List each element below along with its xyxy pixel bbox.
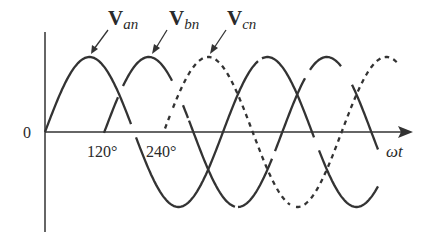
waveform-segment-van: [45, 57, 131, 132]
pointer-arrowhead-vbn-icon: [152, 44, 160, 54]
waveform-segment-van: [319, 150, 378, 207]
label-vbn-sub: bn: [184, 16, 199, 32]
waveform-segment-vbn: [123, 57, 172, 86]
svg-text:Vcn: Vcn: [227, 6, 256, 32]
tick-label-240: 240°: [146, 143, 176, 160]
pointer-arrow-vcn: [214, 30, 226, 48]
waveform-segment-van: [136, 61, 258, 207]
label-van-main: V: [108, 6, 123, 30]
origin-label: 0: [23, 124, 31, 141]
x-axis-label: ωt: [386, 142, 404, 161]
label-vbn-main: V: [169, 6, 184, 30]
waveform-segment-vbn: [352, 85, 378, 150]
pointer-arrowhead-vcn-icon: [210, 44, 218, 54]
waveform-segment-vbn: [104, 97, 118, 133]
pointer-arrowhead-van-icon: [91, 45, 98, 54]
waveform-segment-van: [262, 57, 314, 137]
label-van-sub: an: [123, 16, 138, 32]
pointer-arrow-vbn: [156, 30, 167, 48]
three-phase-waveform-diagram: 0 120° 240° ωt Van Vbn Vcn: [0, 0, 435, 235]
waveform-segment-vcn: [165, 115, 170, 128]
label-vcn-main: V: [227, 6, 242, 30]
waveform-segment-vbn: [275, 78, 305, 151]
label-vcn-sub: cn: [242, 16, 256, 32]
label-van: Van: [91, 6, 138, 54]
pointer-arrow-van: [94, 30, 108, 49]
label-vbn: Vbn: [152, 6, 199, 54]
svg-text:Van: Van: [108, 6, 138, 32]
label-vcn: Vcn: [210, 6, 256, 54]
tick-label-120: 120°: [87, 143, 117, 160]
waveform-segment-vbn: [310, 57, 341, 70]
waveform-segment-vbn: [183, 105, 188, 118]
svg-text:Vbn: Vbn: [169, 6, 199, 32]
waveform-segment-vcn: [173, 57, 290, 205]
